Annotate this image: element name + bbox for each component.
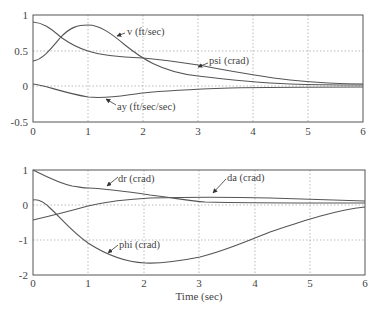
bottom-xtick-6: 6 (362, 277, 368, 289)
bottom-xtick-5: 5 (307, 277, 313, 289)
figure: 1 0.5 0 -0.5 0 1 2 3 4 5 6 v (ft/sec) ps… (0, 0, 384, 310)
bottom-ytick-neg1: -1 (19, 234, 28, 246)
top-ytick-1: 1 (23, 9, 29, 21)
label-v: v (ft/sec) (127, 26, 165, 38)
label-phi: phi (crad) (119, 239, 161, 251)
bottom-xtick-1: 1 (85, 277, 91, 289)
bottom-ytick-1: 1 (23, 164, 29, 176)
bottom-ytick-neg2: -2 (19, 269, 28, 281)
bottom-xtick-0: 0 (30, 277, 36, 289)
bottom-plot: 1 0 -1 -2 0 1 2 3 4 5 6 Time (sec) dr (c… (19, 164, 368, 303)
bottom-grid (33, 170, 365, 275)
x-axis-title: Time (sec) (176, 290, 223, 303)
label-ay: ay (ft/sec/sec) (117, 101, 176, 113)
top-xtick-0: 0 (30, 125, 36, 137)
top-ytick-0: 0 (23, 80, 29, 92)
bottom-xtick-4: 4 (252, 277, 258, 289)
bottom-ytick-0: 0 (23, 199, 29, 211)
top-xtick-4: 4 (250, 125, 256, 137)
top-ytick-0.5: 0.5 (14, 45, 28, 57)
arrow-da (213, 179, 226, 193)
bottom-xtick-2: 2 (141, 277, 147, 289)
arrow-ay (106, 99, 116, 105)
top-xtick-6: 6 (360, 125, 366, 137)
arrow-phi (108, 245, 118, 253)
top-xtick-1: 1 (85, 125, 91, 137)
top-xtick-2: 2 (140, 125, 146, 137)
top-grid (33, 15, 363, 122)
label-psi: psi (crad) (209, 55, 249, 67)
top-xtick-5: 5 (305, 125, 311, 137)
label-da: da (crad) (227, 172, 265, 184)
top-plot: 1 0.5 0 -0.5 0 1 2 3 4 5 6 v (ft/sec) ps… (11, 9, 367, 137)
arrow-v (117, 33, 125, 36)
label-dr: dr (crad) (118, 173, 155, 185)
top-xtick-3: 3 (195, 125, 201, 137)
arrow-dr (107, 177, 118, 186)
bottom-xtick-3: 3 (196, 277, 202, 289)
top-ytick-neg0.5: -0.5 (11, 116, 29, 128)
